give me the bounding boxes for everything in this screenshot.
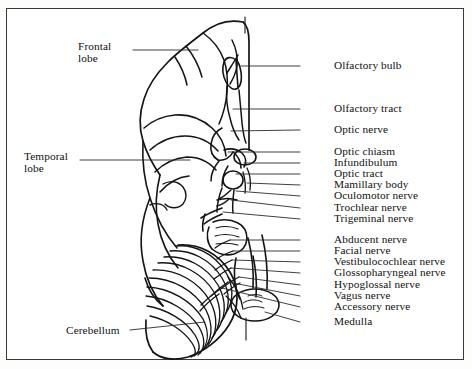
leader-oculomotor-nerve bbox=[236, 191, 300, 196]
piriform-lobe bbox=[150, 182, 186, 210]
temporal-lobe bbox=[144, 115, 226, 192]
leader-trigeminal-nerve bbox=[223, 212, 300, 219]
occipital-edge bbox=[141, 198, 163, 306]
olfactory-bulb bbox=[223, 58, 241, 90]
olfactory-tract bbox=[227, 86, 246, 143]
label-trigeminal-nerve: Trigeminal nerve bbox=[334, 213, 413, 225]
brainstem-border bbox=[248, 235, 267, 289]
label-optic-nerve: Optic nerve bbox=[334, 124, 388, 136]
label-temporal-lobe-line2: lobe bbox=[24, 162, 68, 174]
optic-nerve bbox=[211, 128, 233, 160]
label-temporal-lobe: Temporal lobe bbox=[24, 150, 68, 175]
label-frontal-lobe-line1: Frontal bbox=[78, 40, 111, 52]
leader-optic-nerve bbox=[231, 130, 300, 131]
leader-glossopharyngeal-nerve bbox=[231, 268, 300, 273]
pons-striations bbox=[215, 227, 239, 245]
leader-mamillary-body bbox=[247, 183, 300, 185]
label-frontal-lobe: Frontal lobe bbox=[78, 40, 111, 65]
pons bbox=[207, 220, 247, 255]
leader-cerebellum bbox=[130, 322, 205, 330]
label-frontal-lobe-line2: lobe bbox=[78, 52, 111, 64]
hypothalamus-midline bbox=[243, 168, 250, 193]
figure-canvas: Frontal lobe Temporal lobe Cerebellum Ol… bbox=[0, 0, 472, 369]
label-medulla: Medulla bbox=[334, 316, 372, 328]
medulla-striations bbox=[243, 295, 264, 310]
leader-hypoglossal-nerve bbox=[239, 277, 300, 285]
label-olfactory-bulb: Olfactory bulb bbox=[334, 60, 402, 72]
leader-trochlear-nerve bbox=[231, 200, 300, 208]
label-olfactory-tract: Olfactory tract bbox=[334, 103, 402, 115]
label-glossopharyngeal-nerve: Glossopharyngeal nerve bbox=[334, 267, 446, 279]
label-cerebellum: Cerebellum bbox=[66, 325, 120, 337]
label-accessory-nerve: Accessory nerve bbox=[334, 301, 410, 313]
label-temporal-lobe-line1: Temporal bbox=[24, 150, 68, 162]
label-oculomotor-nerve: Oculomotor nerve bbox=[334, 190, 418, 202]
